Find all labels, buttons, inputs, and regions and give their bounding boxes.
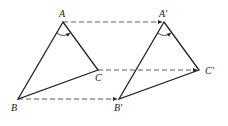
translation-diagram: A B C A′ B′ C′ bbox=[0, 0, 228, 126]
label-c-prime: C′ bbox=[205, 65, 215, 76]
angle-arc-a bbox=[57, 33, 70, 36]
label-b-prime: B′ bbox=[114, 102, 123, 113]
label-a-prime: A′ bbox=[158, 8, 168, 19]
diagram-svg: A B C A′ B′ C′ bbox=[0, 0, 228, 126]
label-a: A bbox=[58, 8, 66, 19]
angle-arc-a-prime bbox=[158, 33, 171, 36]
label-b: B bbox=[11, 102, 17, 113]
label-c: C bbox=[95, 72, 102, 83]
